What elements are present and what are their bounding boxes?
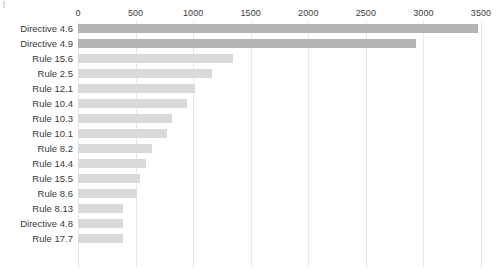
x-tick-label-3500: 3500: [471, 8, 491, 18]
category-label-rule-2-5: Rule 2.5: [0, 68, 73, 79]
category-label-rule-12-1: Rule 12.1: [0, 83, 73, 94]
category-label-rule-8-6: Rule 8.6: [0, 188, 73, 199]
bar-rule-12-1[interactable]: [78, 84, 195, 93]
bar-rule-8-2[interactable]: [78, 144, 152, 153]
chart-row: Rule 10.1: [0, 126, 502, 141]
chart-row: Directive 4.8: [0, 216, 502, 231]
category-label-directive-4-6: Directive 4.6: [0, 23, 73, 34]
chart-row: Rule 8.6: [0, 186, 502, 201]
x-tick-label-1500: 1500: [240, 8, 260, 18]
category-label-rule-15-5: Rule 15.5: [0, 173, 73, 184]
category-label-rule-15-6: Rule 15.6: [0, 53, 73, 64]
x-tick-label-1000: 1000: [183, 8, 203, 18]
horizontal-bar-chart: 0500100015002000250030003500 Directive 4…: [0, 0, 502, 275]
bar-rule-10-4[interactable]: [78, 99, 187, 108]
x-tick-label-500: 500: [128, 8, 143, 18]
bar-rule-2-5[interactable]: [78, 69, 212, 78]
chart-row: Rule 2.5: [0, 66, 502, 81]
bar-directive-4-9[interactable]: [78, 39, 416, 48]
bar-rule-8-13[interactable]: [78, 204, 123, 213]
chart-row: Rule 17.7: [0, 231, 502, 246]
chart-row: Rule 8.13: [0, 201, 502, 216]
chart-bar-rows: Directive 4.6Directive 4.9Rule 15.6Rule …: [0, 21, 502, 246]
category-label-rule-8-13: Rule 8.13: [0, 203, 73, 214]
bar-rule-17-7[interactable]: [78, 234, 123, 243]
chart-row: Rule 15.5: [0, 171, 502, 186]
bar-rule-14-4[interactable]: [78, 159, 146, 168]
chart-row: Rule 15.6: [0, 51, 502, 66]
chart-row: Rule 14.4: [0, 156, 502, 171]
chart-row: Directive 4.9: [0, 36, 502, 51]
category-label-rule-10-4: Rule 10.4: [0, 98, 73, 109]
x-tick-label-0: 0: [75, 8, 80, 18]
bar-rule-10-1[interactable]: [78, 129, 167, 138]
category-label-directive-4-8: Directive 4.8: [0, 218, 73, 229]
category-label-rule-17-7: Rule 17.7: [0, 233, 73, 244]
bar-directive-4-8[interactable]: [78, 219, 123, 228]
bar-rule-10-3[interactable]: [78, 114, 172, 123]
chart-row: Directive 4.6: [0, 21, 502, 36]
x-tick-label-2500: 2500: [356, 8, 376, 18]
category-label-rule-8-2: Rule 8.2: [0, 143, 73, 154]
x-tick-label-3000: 3000: [413, 8, 433, 18]
bar-rule-15-6[interactable]: [78, 54, 233, 63]
chart-row: Rule 8.2: [0, 141, 502, 156]
chart-row: Rule 10.4: [0, 96, 502, 111]
category-label-rule-14-4: Rule 14.4: [0, 158, 73, 169]
category-label-rule-10-1: Rule 10.1: [0, 128, 73, 139]
bar-rule-8-6[interactable]: [78, 189, 137, 198]
category-label-directive-4-9: Directive 4.9: [0, 38, 73, 49]
bar-directive-4-6[interactable]: [78, 24, 478, 33]
chart-row: Rule 10.3: [0, 111, 502, 126]
chart-row: Rule 12.1: [0, 81, 502, 96]
category-label-rule-10-3: Rule 10.3: [0, 113, 73, 124]
x-tick-label-2000: 2000: [298, 8, 318, 18]
bar-rule-15-5[interactable]: [78, 174, 140, 183]
